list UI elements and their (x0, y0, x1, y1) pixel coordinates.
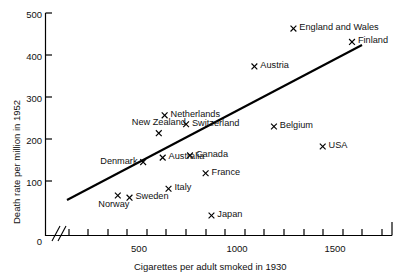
marker-x-austria (252, 64, 258, 70)
point-label-norway: Norway (98, 200, 129, 209)
point-label-sweden: Sweden (135, 192, 168, 201)
point-label-austria: Austria (260, 61, 289, 70)
marker-x-belgium (271, 124, 277, 130)
marker-x-england-and-wales (291, 26, 297, 32)
point-label-usa: USA (329, 141, 348, 150)
point-label-belgium: Belgium (280, 121, 313, 130)
y-tick-marks (46, 13, 53, 181)
point-label-japan: Japan (217, 210, 242, 219)
marker-x-japan (209, 213, 215, 219)
point-label-england-and-wales: England and Wales (299, 23, 378, 32)
point-label-finland: Finland (358, 36, 388, 45)
marker-x-france (203, 170, 209, 176)
point-label-switzerland: Switzerland (192, 119, 240, 128)
x-tick-marks (69, 222, 392, 236)
marker-x-new-zealand (156, 130, 162, 136)
plot-area (0, 0, 412, 280)
point-label-france: France (212, 168, 241, 177)
marker-x-usa (320, 144, 326, 150)
point-label-new-zealand: New Zealand (132, 118, 186, 127)
marker-x-norway (115, 193, 121, 199)
point-label-denmark: Denmark (100, 157, 137, 166)
point-label-canada: Canada (196, 150, 228, 159)
scatter-chart: Death rate per million in 1952 500 400 3… (0, 0, 412, 280)
point-label-italy: Italy (174, 183, 191, 192)
marker-x-finland (349, 39, 355, 45)
marker-x-australia (160, 155, 166, 161)
